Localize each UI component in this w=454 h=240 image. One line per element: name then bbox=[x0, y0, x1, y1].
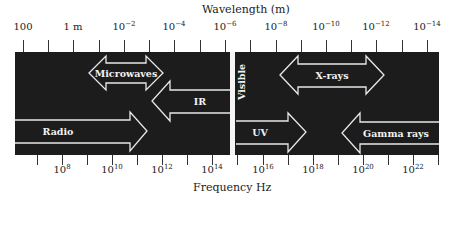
gamma-rays-label: Gamma rays bbox=[363, 128, 429, 139]
visible-bar bbox=[230, 52, 235, 155]
frequency-tick bbox=[288, 155, 289, 165]
uv-label: UV bbox=[252, 127, 268, 138]
frequency-label: 108 bbox=[53, 164, 70, 175]
ir-label: IR bbox=[194, 96, 206, 107]
frequency-axis-title: Frequency Hz bbox=[193, 181, 271, 194]
frequency-label: 1012 bbox=[151, 164, 173, 175]
frequency-tick bbox=[438, 155, 439, 165]
uv-arrow: UV bbox=[236, 113, 306, 152]
ir-arrow: IR bbox=[152, 81, 230, 121]
frequency-tick bbox=[338, 155, 339, 165]
frequency-tick bbox=[237, 155, 238, 165]
frequency-tick bbox=[187, 155, 188, 165]
frequency-label: 1020 bbox=[352, 164, 374, 175]
xrays-arrow: X-rays bbox=[280, 56, 384, 94]
frequency-tick bbox=[37, 155, 38, 165]
microwaves-label: Microwaves bbox=[95, 68, 158, 79]
frequency-label: 1014 bbox=[201, 164, 223, 175]
frequency-tick bbox=[137, 155, 138, 165]
gamma-rays-arrow: Gamma rays bbox=[342, 113, 439, 153]
frequency-label: 1010 bbox=[101, 164, 123, 175]
radio-label: Radio bbox=[43, 126, 74, 137]
frequency-label: 1022 bbox=[402, 164, 424, 175]
frequency-label: 1016 bbox=[252, 164, 274, 175]
radio-arrow: Radio bbox=[15, 112, 147, 151]
frequency-tick bbox=[388, 155, 389, 165]
frequency-tick bbox=[87, 155, 88, 165]
visible-label: Visible bbox=[236, 64, 247, 101]
xrays-label: X-rays bbox=[315, 70, 348, 81]
microwaves-arrow: Microwaves bbox=[89, 56, 163, 90]
frequency-label: 1018 bbox=[302, 164, 324, 175]
